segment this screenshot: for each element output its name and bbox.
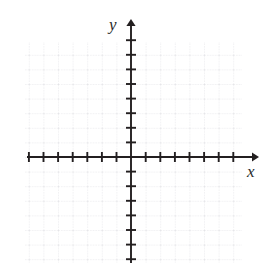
x-axis-label: x (247, 163, 255, 180)
y-axis-label: y (109, 16, 117, 33)
coordinate-plane-canvas (0, 0, 275, 268)
y-axis-arrowhead (126, 19, 135, 26)
coordinate-plane-figure: y x (0, 0, 275, 268)
x-axis-arrowhead (252, 152, 259, 161)
